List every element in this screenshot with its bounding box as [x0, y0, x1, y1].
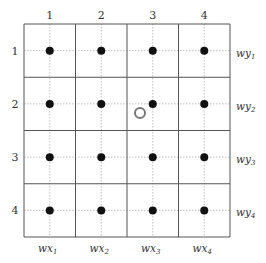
- column-label: 1: [46, 9, 53, 22]
- filled-point: [97, 153, 105, 161]
- column-label: 2: [98, 9, 105, 22]
- filled-point: [46, 153, 54, 161]
- grid-diagram: 12341234wx1wx2wx3wx4wy1wy2wy3wy4: [0, 0, 266, 263]
- right-weight-label: wy3: [236, 153, 256, 167]
- bottom-weight-label: wx1: [38, 242, 57, 256]
- right-weight-label: wy1: [236, 47, 255, 61]
- open-circle-point: [135, 108, 145, 118]
- open-point: [135, 108, 145, 118]
- filled-point: [200, 47, 208, 55]
- row-label: 4: [12, 204, 19, 217]
- row-label: 2: [12, 98, 19, 111]
- filled-point: [200, 206, 208, 214]
- filled-point: [46, 100, 54, 108]
- axis-labels: 12341234wx1wx2wx3wx4wy1wy2wy3wy4: [12, 9, 256, 256]
- filled-point: [200, 100, 208, 108]
- cell-grid-lines: [24, 24, 230, 237]
- column-label: 4: [201, 9, 208, 22]
- column-label: 3: [149, 9, 156, 22]
- filled-point: [46, 47, 54, 55]
- row-label: 1: [12, 45, 19, 58]
- filled-point: [149, 47, 157, 55]
- filled-point: [97, 47, 105, 55]
- bottom-weight-label: wx2: [90, 242, 110, 256]
- filled-point: [149, 100, 157, 108]
- filled-point: [97, 100, 105, 108]
- filled-point: [46, 206, 54, 214]
- row-label: 3: [12, 151, 19, 164]
- bottom-weight-label: wx4: [193, 242, 212, 256]
- right-weight-label: wy2: [236, 100, 256, 114]
- filled-point: [149, 153, 157, 161]
- filled-point: [200, 153, 208, 161]
- filled-point: [97, 206, 105, 214]
- right-weight-label: wy4: [236, 206, 255, 220]
- filled-point: [149, 206, 157, 214]
- bottom-weight-label: wx3: [141, 242, 161, 256]
